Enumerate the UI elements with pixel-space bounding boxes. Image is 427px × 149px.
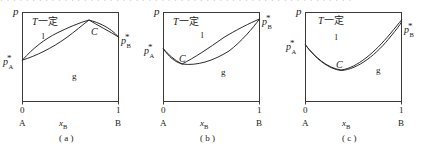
p-star-B-sub: B bbox=[127, 42, 131, 49]
condition-label-text: 一定 bbox=[179, 16, 199, 27]
figure-three-panel-phase-diagrams: · · · · · · · · · · · · · · · · · · · · … bbox=[0, 0, 427, 149]
condition-label: T一定 bbox=[173, 17, 199, 27]
p-star-A-sup: * bbox=[148, 42, 153, 52]
p-star-A-sub: A bbox=[9, 63, 14, 70]
liquid-region-label: l bbox=[335, 33, 338, 42]
azeotrope-point-label: C bbox=[336, 60, 343, 70]
component-B-label: B bbox=[256, 119, 262, 128]
p-star-A-label: p*A bbox=[286, 39, 300, 55]
panel-c-caption: ( c ) bbox=[342, 134, 357, 143]
panel-b-caption: ( b ) bbox=[200, 134, 215, 143]
x-tick-1: 1 bbox=[399, 106, 404, 115]
x-axis-label: xB bbox=[200, 119, 208, 130]
gas-region-label: g bbox=[376, 66, 381, 75]
p-star-B-sub: B bbox=[268, 23, 272, 30]
x-axis-label-sub: B bbox=[346, 123, 350, 130]
p-star-B-label: p*B bbox=[262, 14, 276, 30]
x-axis-label: xB bbox=[59, 119, 67, 130]
x-axis-label-sub: B bbox=[63, 123, 67, 130]
component-B-label: B bbox=[115, 119, 121, 128]
condition-label: T一定 bbox=[318, 16, 344, 26]
p-star-B-sup: * bbox=[408, 21, 413, 31]
liquid-curve bbox=[306, 20, 402, 70]
x-axis-label-sub: B bbox=[204, 123, 208, 130]
p-star-A-sup: * bbox=[290, 38, 295, 48]
x-tick-0: 0 bbox=[303, 106, 308, 115]
azeotrope-point-label: C bbox=[179, 54, 186, 64]
p-star-B-label: p*B bbox=[121, 33, 135, 49]
component-A-label: A bbox=[19, 119, 26, 128]
vapour-curve bbox=[306, 22, 402, 71]
x-axis-label: xB bbox=[342, 119, 350, 130]
gas-region-label: g bbox=[221, 68, 226, 77]
condition-label: T一定 bbox=[32, 17, 58, 27]
condition-label-text: 一定 bbox=[38, 16, 58, 27]
p-star-A-label: p*A bbox=[144, 43, 158, 59]
x-tick-0: 0 bbox=[161, 106, 166, 115]
p-star-B-sup: * bbox=[125, 32, 130, 42]
y-axis-label: p bbox=[13, 6, 19, 17]
p-star-A-sup: * bbox=[7, 53, 12, 63]
panel-c: p T一定 l g C p*A p*B 0 1 A B xB ( c ) bbox=[283, 0, 425, 149]
y-axis-label: p bbox=[296, 6, 302, 17]
panel-a-caption: ( a ) bbox=[59, 134, 74, 143]
component-A-label: A bbox=[302, 119, 309, 128]
p-star-B-sup: * bbox=[266, 13, 271, 23]
p-star-B-label: p*B bbox=[404, 22, 418, 38]
y-axis-label: p bbox=[154, 6, 160, 17]
component-B-label: B bbox=[398, 119, 404, 128]
p-star-A-sub: A bbox=[150, 52, 155, 59]
component-A-label: A bbox=[160, 119, 167, 128]
liquid-region-label: l bbox=[42, 32, 45, 41]
p-star-A-sub: A bbox=[292, 48, 297, 55]
panel-a: p T一定 l g C p*A p*B 0 1 A B xB ( a ) bbox=[0, 0, 142, 149]
x-tick-0: 0 bbox=[20, 106, 25, 115]
x-tick-1: 1 bbox=[116, 106, 121, 115]
gas-region-label: g bbox=[72, 72, 77, 81]
azeotrope-point-label: C bbox=[91, 27, 98, 37]
condition-label-text: 一定 bbox=[324, 15, 344, 26]
p-star-A-label: p*A bbox=[3, 54, 17, 70]
p-star-B-sub: B bbox=[410, 31, 414, 38]
liquid-region-label: l bbox=[201, 31, 204, 40]
panel-b: p T一定 l g C p*A p*B 0 1 A B xB ( b ) bbox=[141, 0, 283, 149]
x-tick-1: 1 bbox=[257, 106, 262, 115]
